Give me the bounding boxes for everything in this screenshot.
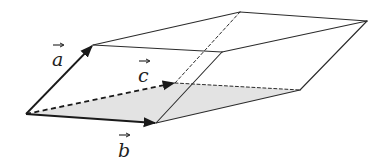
- label-c: c: [138, 59, 150, 86]
- edge-a-to-ac: [93, 12, 240, 45]
- edge-a-to-ab: [93, 45, 222, 52]
- edge-bc-to-abc: [300, 21, 367, 90]
- hidden-edge-c-to-ac: [175, 12, 240, 83]
- label-b-text: b: [118, 139, 130, 161]
- label-b: b: [118, 133, 130, 161]
- label-a-text: a: [52, 48, 63, 70]
- label-c-text: c: [138, 64, 149, 86]
- parallelepiped-diagram: a c b: [0, 0, 381, 164]
- label-a: a: [52, 43, 64, 70]
- edge-ac-to-abc: [240, 12, 367, 21]
- edge-ab-to-abc: [222, 21, 367, 52]
